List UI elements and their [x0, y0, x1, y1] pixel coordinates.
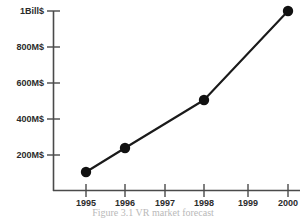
- data-point-1995: [81, 167, 91, 177]
- line-chart-plot: [0, 0, 306, 218]
- figure-vr-market-forecast: 1Bill$ 800M$ 600M$ 400M$ 200M$ 1995 1996…: [0, 0, 306, 218]
- y-tick-label-200m: 200M$: [0, 150, 44, 160]
- y-tick-label-1bill: 1Bill$: [0, 6, 44, 16]
- y-tick-label-800m: 800M$: [0, 42, 44, 52]
- data-point-1998: [199, 95, 209, 105]
- y-tick-label-400m: 400M$: [0, 114, 44, 124]
- y-tick-label-600m: 600M$: [0, 78, 44, 88]
- data-series-line: [86, 11, 288, 172]
- data-point-1996: [120, 143, 130, 153]
- data-point-markers: [81, 6, 293, 177]
- data-point-2000: [283, 6, 293, 16]
- figure-caption: Figure 3.1 VR market forecast: [0, 207, 306, 218]
